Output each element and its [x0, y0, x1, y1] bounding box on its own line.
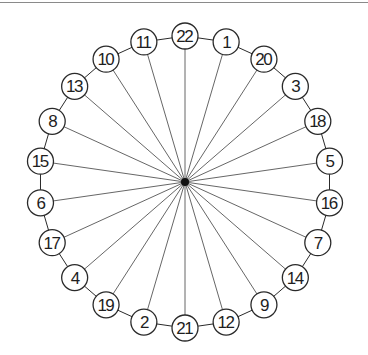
spoke-edge: [185, 182, 226, 322]
node-13: 13: [62, 73, 88, 99]
spoke-edge: [185, 182, 295, 278]
node-2: 2: [131, 309, 157, 335]
node-label: 8: [48, 112, 57, 131]
node-22: 22: [172, 23, 198, 49]
spoke-edge: [75, 86, 185, 182]
node-label: 11: [136, 33, 152, 52]
node-label: 1: [222, 33, 231, 52]
node-16: 16: [317, 190, 343, 216]
node-label: 4: [71, 269, 80, 288]
node-label: 22: [176, 27, 193, 46]
node-label: 14: [287, 269, 304, 288]
node-label: 6: [37, 194, 46, 213]
node-label: 7: [314, 234, 323, 253]
node-label: 16: [321, 194, 338, 213]
node-label: 12: [217, 313, 234, 332]
node-14: 14: [282, 265, 308, 291]
spoke-edge: [144, 42, 185, 182]
node-label: 19: [97, 296, 114, 315]
node-10: 10: [93, 46, 119, 72]
node-21: 21: [172, 315, 198, 341]
node-7: 7: [305, 230, 331, 256]
node-label: 3: [291, 77, 300, 96]
node-9: 9: [251, 292, 277, 318]
node-19: 19: [93, 292, 119, 318]
node-label: 20: [255, 50, 272, 69]
node-18: 18: [305, 108, 331, 134]
star-ring-diagram: 22120318516714912212194176158131011: [0, 0, 368, 355]
spoke-edge: [75, 182, 185, 278]
node-15: 15: [27, 148, 53, 174]
node-17: 17: [39, 230, 65, 256]
node-4: 4: [62, 265, 88, 291]
node-label: 17: [44, 234, 61, 253]
spoke-edge: [185, 86, 295, 182]
node-1: 1: [213, 29, 239, 55]
node-label: 9: [260, 296, 269, 315]
node-label: 5: [326, 152, 335, 171]
node-6: 6: [27, 190, 53, 216]
node-5: 5: [317, 148, 343, 174]
node-11: 11: [131, 29, 157, 55]
node-12: 12: [213, 309, 239, 335]
node-label: 21: [176, 319, 193, 338]
node-20: 20: [251, 46, 277, 72]
spoke-edge: [144, 182, 185, 322]
node-label: 2: [140, 313, 149, 332]
spoke-edge: [185, 42, 226, 182]
node-label: 10: [97, 50, 114, 69]
node-label: 13: [66, 77, 83, 96]
hub-node: [181, 178, 189, 186]
node-label: 18: [309, 112, 326, 131]
node-3: 3: [282, 73, 308, 99]
node-label: 15: [32, 152, 49, 171]
node-8: 8: [39, 108, 65, 134]
